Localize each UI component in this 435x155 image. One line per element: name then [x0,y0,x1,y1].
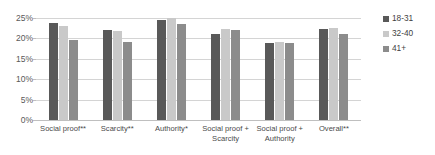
legend-item[interactable]: 18-31 [383,11,435,26]
bar-group [90,18,144,120]
bar [123,42,132,120]
x-axis-category-label: Authority* [144,124,198,134]
y-axis-tick-label: 15% [0,55,33,64]
x-axis-category-label: Social proof** [36,124,90,134]
chart-legend: 18-3132-4041+ [383,11,435,56]
x-axis-category-label: Scarcity** [90,124,144,134]
bar-group [307,18,361,120]
bar-chart: 0%5%10%15%20%25% Social proof**Scarcity*… [0,0,435,155]
legend-item[interactable]: 41+ [383,41,435,56]
legend-label: 32-40 [392,29,413,37]
bar [177,24,186,120]
bar [275,42,284,120]
legend-item[interactable]: 32-40 [383,26,435,41]
bar [69,40,78,120]
y-axis-tick-label: 0% [0,116,33,125]
bar [319,29,328,120]
y-axis-tick-label: 25% [0,14,33,23]
bar [103,30,112,120]
bar-group [253,18,307,120]
bar [285,43,294,120]
bar-group [144,18,198,120]
bar [157,20,166,120]
bar-group [199,18,253,120]
x-axis: Social proof**Scarcity**Authority*Social… [36,124,361,155]
y-axis-tick-label: 5% [0,95,33,104]
bar [167,18,176,120]
bar [113,31,122,120]
x-axis-category-label: Overall** [307,124,361,134]
bar [265,43,274,120]
bar [221,29,230,120]
bar [211,34,220,120]
plot-area [36,18,361,120]
x-axis-category-label: Social proof + Authority [253,124,307,145]
bar [339,34,348,120]
bar [49,23,58,120]
y-axis-tick-label: 10% [0,75,33,84]
y-axis: 0%5%10%15%20%25% [0,0,33,155]
bar [231,30,240,120]
bar [329,28,338,120]
legend-swatch-icon [383,46,389,52]
gridline [36,120,361,121]
legend-swatch-icon [383,16,389,22]
y-axis-tick-label: 20% [0,34,33,43]
bar [59,26,68,120]
legend-swatch-icon [383,31,389,37]
bar-group [36,18,90,120]
x-axis-category-label: Social proof + Scarcity [199,124,253,145]
legend-label: 18-31 [392,14,413,22]
legend-label: 41+ [392,44,406,52]
